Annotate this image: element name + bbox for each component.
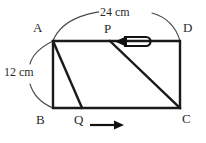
point-label-p: P <box>104 22 111 35</box>
vertex-label-a: A <box>33 21 42 34</box>
dimension-label-width: 24 cm <box>99 6 131 18</box>
segment-a-to-q <box>53 41 82 108</box>
vertex-label-d: D <box>183 21 192 34</box>
arrow-right-head-icon <box>114 121 124 130</box>
geometry-figure: A D B C P Q 24 cm 12 cm <box>0 0 206 143</box>
vertex-label-c: C <box>182 112 191 125</box>
dimension-arc-left-lower <box>30 84 53 108</box>
segment-p-to-c <box>110 41 180 108</box>
rectangle-abcd <box>53 41 180 108</box>
point-label-q: Q <box>74 113 83 126</box>
dimension-label-height: 12 cm <box>3 66 35 78</box>
dimension-arc-left-upper <box>30 41 53 64</box>
dimension-arc-top-right <box>152 13 180 41</box>
vertex-label-b: B <box>36 113 45 126</box>
arrow-left-loop-head-icon <box>115 36 127 47</box>
